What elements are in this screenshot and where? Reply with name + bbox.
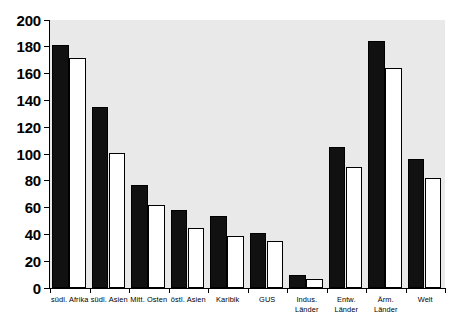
y-axis: 200180160140120100806040200: [0, 0, 50, 320]
bar-series-dark: [368, 41, 385, 288]
bar-group: [248, 20, 288, 288]
y-axis-tick-label: 160: [17, 66, 44, 81]
bar-series-dark: [131, 185, 148, 288]
bar-series-dark: [210, 216, 227, 288]
bar-series-dark: [329, 147, 346, 288]
x-axis-label: Indus. Länder: [287, 295, 327, 314]
bar-series-light: [69, 58, 86, 288]
y-axis-tick-label: 200: [17, 13, 44, 28]
bar-series-dark: [289, 275, 306, 288]
bar-group: [169, 20, 209, 288]
x-axis-tick-mark: [90, 288, 91, 293]
bar-group: [366, 20, 406, 288]
x-axis-tick-mark: [169, 288, 170, 293]
x-axis-label: Welt: [406, 295, 446, 305]
bar-series-light: [346, 167, 363, 288]
bar-series-dark: [250, 233, 267, 288]
x-axis-label: südl. Afrika: [50, 295, 90, 305]
bar-series-dark: [92, 107, 109, 288]
y-axis-line: [49, 20, 50, 289]
bar-group: [406, 20, 446, 288]
bar-group: [90, 20, 130, 288]
x-axis-tick-mark: [129, 288, 130, 293]
bar-series-light: [188, 228, 205, 288]
bar-series-dark: [52, 45, 69, 288]
bar-chart: 200180160140120100806040200 südl. Afrika…: [0, 0, 460, 320]
y-axis-tick-label: 40: [25, 227, 44, 242]
bar-group: [287, 20, 327, 288]
x-axis-tick-mark: [208, 288, 209, 293]
bar-group: [327, 20, 367, 288]
bar-group: [208, 20, 248, 288]
y-axis-tick-label: 60: [25, 200, 44, 215]
bar-group: [129, 20, 169, 288]
x-axis-label: GUS: [248, 295, 288, 305]
y-axis-tick-label: 80: [25, 173, 44, 188]
x-axis-label: Entw. Länder: [327, 295, 367, 314]
y-axis-tick-label: 140: [17, 93, 44, 108]
y-axis-tick-label: 120: [17, 120, 44, 135]
x-axis-tick-mark: [445, 288, 446, 293]
x-axis-tick-mark: [366, 288, 367, 293]
x-axis-label: östl. Asien: [169, 295, 209, 305]
bar-series-light: [227, 236, 244, 288]
x-axis-tick-mark: [248, 288, 249, 293]
x-axis-tick-mark: [327, 288, 328, 293]
bar-series-light: [148, 205, 165, 288]
bar-series-light: [385, 68, 402, 288]
x-axis-label: südl. Asien: [90, 295, 130, 305]
x-axis-tick-mark: [406, 288, 407, 293]
bar-series-light: [109, 153, 126, 288]
x-axis-tick-mark: [50, 288, 51, 293]
y-axis-tick-label: 100: [17, 147, 44, 162]
bar-series-light: [425, 178, 442, 288]
y-axis-tick-label: 180: [17, 39, 44, 54]
y-axis-tick-label: 20: [25, 254, 44, 269]
x-axis-label: Karibik: [208, 295, 248, 305]
x-axis: südl. Afrikasüdl. AsienMitt. Ostenöstl. …: [0, 288, 460, 320]
x-axis-label: Mitt. Osten: [129, 295, 169, 305]
x-axis-tick-mark: [287, 288, 288, 293]
bar-series-light: [306, 279, 323, 288]
bar-series-light: [267, 241, 284, 288]
bar-series-dark: [171, 210, 188, 288]
bar-series-dark: [408, 159, 425, 288]
bar-group: [50, 20, 90, 288]
x-axis-label: Ärm. Länder: [366, 295, 406, 314]
plot-area: [50, 20, 445, 288]
